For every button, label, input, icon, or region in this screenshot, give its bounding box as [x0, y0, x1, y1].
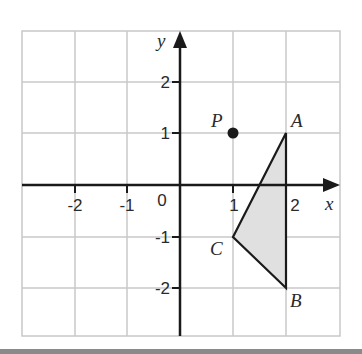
- origin-label: 0: [157, 191, 166, 210]
- x-tick-label: 1: [229, 196, 238, 215]
- y-tick-label: 2: [161, 73, 170, 92]
- y-tick-label: 1: [161, 124, 170, 143]
- point-label-p: P: [210, 110, 223, 131]
- x-axis-arrow-icon: [323, 178, 340, 192]
- y-axis-arrow-icon: [173, 31, 187, 48]
- y-axis-label: y: [155, 30, 166, 51]
- coordinate-diagram: -2 -1 0 1 2 2 1 -1 -2 x y P A B C: [0, 0, 362, 354]
- point-p-marker: [228, 128, 239, 139]
- point-label-c: C: [210, 238, 223, 259]
- y-tick-label: -1: [155, 228, 170, 247]
- x-axis-label: x: [324, 193, 334, 214]
- triangle-abc: [233, 133, 286, 288]
- x-tick-label: -1: [119, 196, 134, 215]
- x-tick-label: -2: [67, 196, 82, 215]
- x-tick-label: 2: [290, 196, 299, 215]
- y-tick-label: -2: [155, 279, 170, 298]
- point-label-b: B: [290, 290, 302, 311]
- bottom-border: [0, 349, 362, 354]
- point-label-a: A: [289, 110, 303, 131]
